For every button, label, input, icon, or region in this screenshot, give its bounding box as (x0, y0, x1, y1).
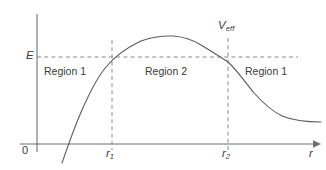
region-label-left: Region 1 (44, 66, 86, 77)
region-label-middle: Region 2 (145, 66, 187, 77)
veff-base: V (218, 19, 226, 31)
veff-subscript: eff (226, 24, 235, 33)
effective-potential-figure: E 0 r1 r2 r Veff Region 1 Region 2 Regio… (0, 0, 326, 170)
region-label-right: Region 1 (245, 66, 287, 77)
r2-tick-subscript: 2 (226, 152, 230, 161)
r2-tick-label: r2 (222, 148, 230, 161)
x-axis-label: r (309, 148, 313, 160)
energy-axis-label: E (26, 50, 34, 62)
r1-tick-label: r1 (106, 148, 114, 161)
x-axis-arrow-icon (313, 140, 321, 148)
plot-canvas (0, 0, 326, 170)
r1-tick-subscript: 1 (110, 152, 114, 161)
veff-curve-label: Veff (218, 20, 235, 33)
origin-label: 0 (22, 145, 28, 156)
